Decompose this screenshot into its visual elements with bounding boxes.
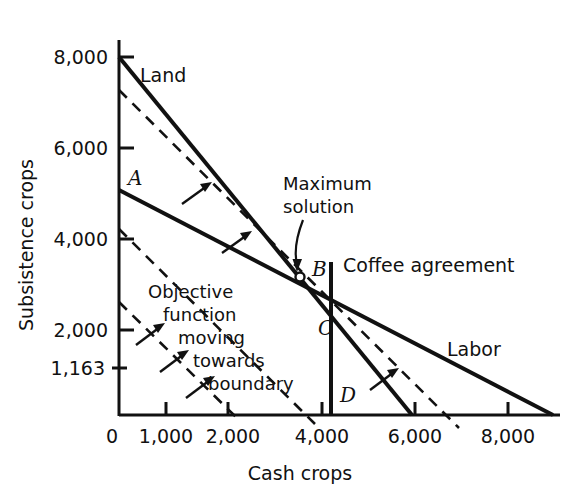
- point-label-a: A: [126, 166, 142, 190]
- land-constraint-line: [119, 57, 412, 415]
- x-tick-labels: 0 1,000 2,000 4,000 6,000 8,000: [106, 425, 535, 447]
- y-tick-label-6000: 6,000: [54, 137, 108, 159]
- objective-note-line-4: towards: [193, 350, 265, 371]
- y-axis-title: Subsistence crops: [15, 159, 37, 331]
- objective-note-line-2: function: [163, 304, 237, 325]
- objective-note-line-5: boundary: [208, 373, 294, 394]
- series-label-labor: Labor: [447, 338, 501, 360]
- chart-svg: 8,000 6,000 4,000 2,000 1,163 0 1,000 2,…: [0, 0, 584, 500]
- y-tick-label-8000: 8,000: [54, 46, 108, 68]
- point-label-b: B: [311, 257, 327, 281]
- labor-constraint-line: [119, 190, 553, 415]
- linear-programming-chart: 8,000 6,000 4,000 2,000 1,163 0 1,000 2,…: [0, 0, 584, 500]
- y-tick-marks: [112, 57, 134, 368]
- objective-note-line-1: Objective: [148, 281, 233, 302]
- x-tick-label-0: 0: [106, 425, 118, 447]
- x-tick-label-2000: 2,000: [206, 425, 260, 447]
- vertex-markers: [296, 273, 305, 282]
- y-tick-labels: 8,000 6,000 4,000 2,000 1,163: [51, 46, 108, 379]
- annotation-objective-function: Objective function moving towards bounda…: [148, 281, 294, 394]
- objective-note-line-3: moving: [178, 327, 245, 348]
- x-tick-label-1000: 1,000: [139, 425, 193, 447]
- constraint-lines: [119, 57, 553, 415]
- point-label-d: D: [339, 383, 356, 407]
- x-tick-label-6000: 6,000: [388, 425, 442, 447]
- series-label-coffee-agreement: Coffee agreement: [343, 254, 515, 276]
- y-tick-label-4000: 4,000: [54, 228, 108, 250]
- maximum-solution-arrow: [296, 220, 303, 264]
- y-tick-label-2000: 2,000: [54, 319, 108, 341]
- arrow-land-upper: [182, 182, 212, 204]
- x-tick-label-4000: 4,000: [295, 425, 349, 447]
- maximum-solution-line-1: Maximum: [283, 173, 372, 194]
- arrow-obj-2: [160, 350, 189, 372]
- y-tick-label-1163: 1,163: [51, 357, 105, 379]
- x-tick-label-8000: 8,000: [481, 425, 535, 447]
- point-b-marker: [296, 273, 305, 282]
- x-axis-title: Cash crops: [248, 462, 352, 484]
- x-tick-marks: [166, 402, 508, 415]
- series-label-land: Land: [140, 64, 186, 86]
- maximum-solution-line-2: solution: [283, 196, 354, 217]
- point-label-c: C: [318, 316, 333, 340]
